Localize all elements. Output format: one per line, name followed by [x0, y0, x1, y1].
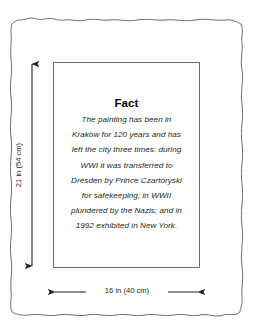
fact-line: for safekeeping; in WWII — [56, 188, 197, 203]
fact-line: 1992 exhibited in New York. — [56, 218, 197, 233]
height-dimension-label: 21 in (54 cm) — [14, 135, 24, 195]
width-dimension-label: 16 in (40 cm) — [86, 286, 168, 296]
fact-line: Dresden by Prince Czartoryski — [56, 173, 197, 188]
fact-body: The painting has been in Kraków for 120 … — [56, 112, 197, 234]
fact-title: Fact — [56, 96, 197, 110]
fact-line: left the city three times: during — [56, 142, 197, 157]
fact-line: Kraków for 120 years and has — [56, 127, 197, 142]
fact-line: The painting has been in — [56, 112, 197, 127]
fact-line: WWI it was transferred to — [56, 158, 197, 173]
diagram-canvas: Fact The painting has been in Kraków for… — [0, 0, 253, 333]
fact-card: Fact The painting has been in Kraków for… — [56, 96, 197, 234]
fact-line: plundered by the Nazis; and in — [56, 203, 197, 218]
